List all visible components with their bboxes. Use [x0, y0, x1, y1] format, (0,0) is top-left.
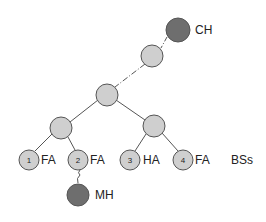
wireless-link-icon — [77, 170, 80, 183]
leaf-label-1: FA — [41, 153, 56, 167]
link-left-leaf2 — [68, 137, 75, 150]
left-node — [50, 117, 72, 139]
link-root-right — [116, 100, 145, 120]
leaf-number-2: 2 — [76, 156, 81, 165]
leaf-number-3: 3 — [128, 156, 133, 165]
right-node — [143, 115, 165, 137]
level1-node — [141, 45, 163, 67]
ch-node — [166, 18, 190, 42]
mh-node — [67, 184, 89, 206]
link-right-leaf4 — [162, 133, 178, 151]
leaf-label-2: FA — [90, 153, 105, 167]
root-node — [96, 84, 118, 106]
link-root-left — [70, 100, 98, 122]
link-right-leaf3 — [135, 134, 146, 151]
link-ch-level1 — [161, 37, 167, 48]
tree-diagram: CH 1 FA 2 FA 3 HA 4 FA BSs MH — [0, 0, 266, 222]
link-level1-root — [115, 64, 145, 87]
leaf-number-4: 4 — [181, 156, 186, 165]
ch-label: CH — [195, 23, 212, 37]
leaf-label-3: HA — [143, 153, 160, 167]
group-label-bss: BSs — [231, 153, 253, 167]
link-left-leaf1 — [35, 134, 52, 151]
leaf-label-4: FA — [195, 153, 210, 167]
leaf-number-1: 1 — [27, 156, 32, 165]
mh-label: MH — [95, 188, 114, 202]
